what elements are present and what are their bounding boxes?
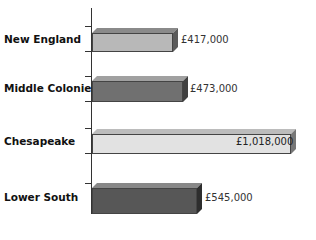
category-label-chesapeake: Chesapeake bbox=[4, 135, 75, 147]
axis-tick bbox=[85, 76, 91, 77]
value-label-new-england: £417,000 bbox=[181, 34, 229, 45]
bar-lower-south bbox=[92, 183, 202, 214]
bar-new-england bbox=[92, 28, 178, 52]
axis-tick bbox=[85, 26, 91, 27]
axis-tick bbox=[85, 51, 91, 52]
value-label-middle-colonies: £473,000 bbox=[190, 83, 238, 94]
category-label-new-england: New England bbox=[4, 33, 81, 45]
axis-tick bbox=[85, 183, 91, 184]
value-label-lower-south: £545,000 bbox=[205, 192, 253, 203]
category-label-middle-colonies: Middle Colonies bbox=[4, 82, 98, 94]
category-label-lower-south: Lower South bbox=[4, 191, 78, 203]
axis-tick bbox=[85, 128, 91, 129]
axis-tick bbox=[85, 153, 91, 154]
axis-tick bbox=[85, 101, 91, 102]
value-label-chesapeake: £1,018,000 bbox=[236, 136, 293, 147]
bar-middle-colonies bbox=[92, 76, 188, 102]
